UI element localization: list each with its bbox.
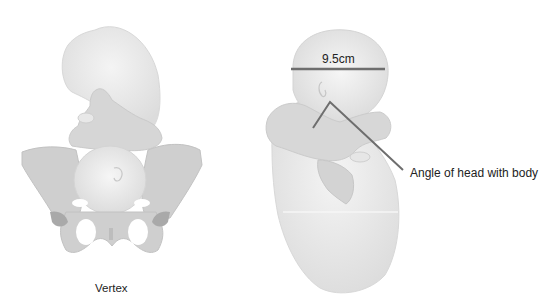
diagram-svg <box>0 0 557 305</box>
pelvis-left-wing <box>22 147 82 220</box>
pelvic-inlet-gap-right <box>134 199 150 207</box>
fetal-hand-right <box>350 152 370 162</box>
pelvis-right-wing <box>142 144 202 220</box>
right-figure-flexion <box>266 30 403 293</box>
measurement-label: 9.5cm <box>322 52 355 66</box>
diagram-stage: Vertex 9.5cm Angle of head with body <box>0 0 557 305</box>
angle-annotation-label: Angle of head with body <box>410 166 538 180</box>
obturator-foramen-right <box>128 219 148 245</box>
fetal-hand-left <box>78 113 94 123</box>
vertex-caption: Vertex <box>95 282 128 294</box>
left-figure-vertex <box>22 27 202 253</box>
obturator-foramen-left <box>76 219 96 245</box>
coccyx <box>109 228 113 240</box>
pelvic-inlet-gap-left <box>72 199 88 207</box>
